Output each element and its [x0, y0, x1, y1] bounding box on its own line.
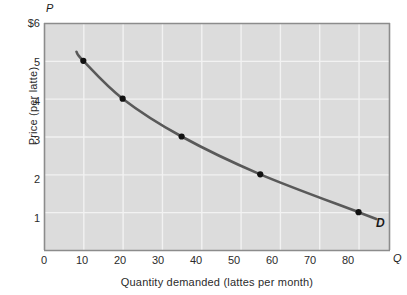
demand-curve-label: D [376, 216, 385, 230]
data-point-marker [80, 58, 86, 64]
plot-area [0, 0, 407, 295]
data-point-marker [120, 96, 126, 102]
data-point-marker [355, 209, 361, 215]
demand-curve-figure: Price (per latte) P Q $6 5 4 3 2 1 0 10 … [0, 0, 407, 295]
data-point-marker [257, 171, 263, 177]
data-point-marker [179, 133, 185, 139]
